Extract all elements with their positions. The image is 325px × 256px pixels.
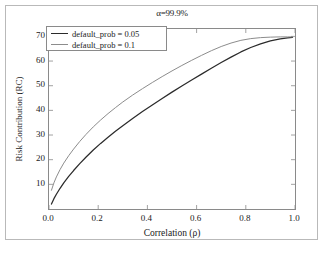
x-axis-tick-label: 0.2 bbox=[82, 213, 112, 223]
series-line bbox=[51, 37, 292, 204]
series-line bbox=[51, 37, 292, 190]
y-axis-tick-label: 40 bbox=[20, 105, 45, 114]
chart-title: α=99.9% bbox=[48, 8, 296, 18]
y-axis-tick-text: 20 bbox=[23, 154, 45, 163]
y-axis-tick-label: 50 bbox=[20, 80, 45, 89]
series-lines bbox=[51, 37, 292, 204]
plot-area bbox=[48, 28, 296, 210]
y-axis-tick-text: 70 bbox=[23, 31, 45, 40]
x-axis-tick-label: 0.4 bbox=[131, 213, 161, 223]
y-axis-tick-label: 10 bbox=[20, 179, 45, 188]
axis-tick-marks bbox=[49, 29, 295, 209]
chart-legend: default_prob = 0.05 default_prob = 0.1 bbox=[46, 26, 167, 51]
x-axis-tick-text: 0.4 bbox=[131, 213, 161, 223]
legend-item-label: default_prob = 0.1 bbox=[72, 40, 135, 50]
y-axis-tick-text: 40 bbox=[23, 105, 45, 114]
legend-item: default_prob = 0.1 bbox=[47, 39, 166, 50]
x-axis-tick-text: 0.6 bbox=[181, 213, 211, 223]
x-axis-tick-text: 0.0 bbox=[33, 213, 63, 223]
legend-item-label: default_prob = 0.05 bbox=[72, 29, 139, 39]
x-axis-tick-text: 0.8 bbox=[230, 213, 260, 223]
x-axis-tick-text: 1.0 bbox=[279, 213, 309, 223]
y-axis-tick-text: 10 bbox=[23, 179, 45, 188]
legend-item: default_prob = 0.05 bbox=[47, 28, 166, 39]
y-axis-tick-label: 60 bbox=[20, 56, 45, 65]
x-axis-tick-label: 0.0 bbox=[33, 213, 63, 223]
legend-color-swatch bbox=[51, 44, 68, 45]
legend-color-swatch bbox=[51, 33, 68, 34]
x-axis-tick-label: 0.6 bbox=[181, 213, 211, 223]
x-axis-tick-label: 0.8 bbox=[230, 213, 260, 223]
x-axis-label: Correlation (ρ) bbox=[48, 228, 296, 238]
y-axis-tick-text: 60 bbox=[23, 56, 45, 65]
plot-svg bbox=[49, 29, 295, 209]
x-axis-tick-text: 0.2 bbox=[82, 213, 112, 223]
x-axis-tick-label: 1.0 bbox=[279, 213, 309, 223]
y-axis-tick-label: 30 bbox=[20, 130, 45, 139]
y-axis-tick-label: 20 bbox=[20, 154, 45, 163]
y-axis-tick-label: 70 bbox=[20, 31, 45, 40]
y-axis-tick-text: 30 bbox=[23, 130, 45, 139]
y-axis-tick-text: 50 bbox=[23, 80, 45, 89]
chart-page: α=99.9% Risk Contribution (RC) Correlati… bbox=[0, 0, 325, 256]
